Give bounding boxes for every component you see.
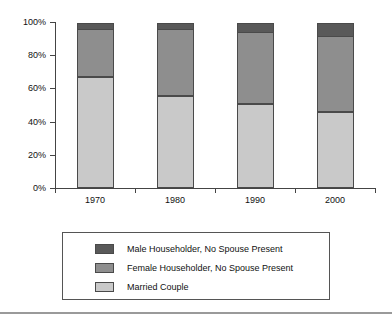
legend-label: Female Householder, No Spouse Present xyxy=(127,263,293,274)
x-tick-mark xyxy=(55,188,56,193)
y-axis-labels: 0%20%40%60%80%100% xyxy=(0,0,52,210)
bar-group[interactable] xyxy=(237,22,274,188)
bar-segment[interactable] xyxy=(317,23,354,37)
y-tick-mark xyxy=(50,55,55,56)
legend-item[interactable]: Male Householder, No Spouse Present xyxy=(95,241,283,257)
x-tick-mark xyxy=(215,188,216,193)
y-tick-label: 40% xyxy=(28,118,46,127)
footer-divider xyxy=(0,312,392,314)
y-tick-mark xyxy=(50,88,55,89)
y-tick-mark xyxy=(50,122,55,123)
stacked-bar-chart: 0%20%40%60%80%100% 1970198019902000 Male… xyxy=(0,0,392,325)
x-tick-label: 2000 xyxy=(305,195,365,205)
legend-item[interactable]: Married Couple xyxy=(95,279,189,295)
y-tick-label: 0% xyxy=(33,184,46,193)
y-tick-label: 20% xyxy=(28,151,46,160)
legend-label: Male Householder, No Spouse Present xyxy=(127,244,283,255)
y-tick-mark xyxy=(50,22,55,23)
bar-segment[interactable] xyxy=(237,32,274,104)
legend-item[interactable]: Female Householder, No Spouse Present xyxy=(95,260,293,276)
x-tick-label: 1990 xyxy=(225,195,285,205)
bars-layer xyxy=(55,22,375,188)
x-tick-label: 1970 xyxy=(65,195,125,205)
legend-swatch-icon xyxy=(95,282,114,292)
bar-group[interactable] xyxy=(77,22,114,188)
y-tick-mark xyxy=(50,155,55,156)
legend-swatch-icon xyxy=(95,263,114,273)
x-tick-mark xyxy=(135,188,136,193)
plot-area: 0%20%40%60%80%100% 1970198019902000 xyxy=(0,0,392,210)
bar-segment[interactable] xyxy=(317,112,354,188)
x-tick-label: 1980 xyxy=(145,195,205,205)
x-tick-mark xyxy=(295,188,296,193)
bar-stack xyxy=(317,22,354,188)
bar-segment[interactable] xyxy=(317,36,354,112)
chart-legend: Male Householder, No Spouse PresentFemal… xyxy=(62,232,330,300)
bar-group[interactable] xyxy=(157,22,194,188)
bar-segment[interactable] xyxy=(157,96,194,188)
legend-label: Married Couple xyxy=(127,282,189,293)
x-tick-mark xyxy=(375,188,376,193)
bar-group[interactable] xyxy=(317,22,354,188)
bar-stack xyxy=(237,22,274,188)
legend-swatch-icon xyxy=(95,244,114,254)
bar-segment[interactable] xyxy=(157,29,194,96)
bar-stack xyxy=(157,22,194,188)
bar-stack xyxy=(77,22,114,188)
y-tick-label: 60% xyxy=(28,84,46,93)
bar-segment[interactable] xyxy=(77,77,114,188)
y-tick-label: 100% xyxy=(23,18,46,27)
bar-segment[interactable] xyxy=(237,104,274,188)
y-tick-label: 80% xyxy=(28,51,46,60)
x-axis-labels: 1970198019902000 xyxy=(55,193,375,211)
bar-segment[interactable] xyxy=(77,29,114,77)
